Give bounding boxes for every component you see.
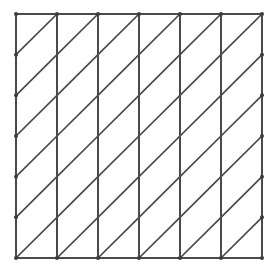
lattice-node-r4-c0 <box>14 175 18 179</box>
lattice-node-r1-c6 <box>260 53 264 57</box>
lattice-node-r0-c0 <box>14 12 18 16</box>
lattice-node-r1-c0 <box>14 53 18 57</box>
lattice-node-r0-c6 <box>260 12 264 16</box>
lattice-node-r6-c4 <box>178 256 182 260</box>
lattice-node-r6-c2 <box>96 256 100 260</box>
lattice-node-r0-c4 <box>178 12 182 16</box>
lattice-node-r3-c6 <box>260 134 264 138</box>
lattice-node-r6-c1 <box>55 256 59 260</box>
lattice-node-r6-c0 <box>14 256 18 260</box>
lattice-node-r2-c0 <box>14 93 18 97</box>
lattice-node-r5-c0 <box>14 215 18 219</box>
lattice-node-r0-c3 <box>137 12 141 16</box>
lattice-node-r0-c5 <box>219 12 223 16</box>
lattice-node-r6-c6 <box>260 256 264 260</box>
lattice-diagram-figure <box>0 0 274 270</box>
figure-background <box>0 0 274 270</box>
lattice-node-r3-c0 <box>14 134 18 138</box>
lattice-node-r0-c1 <box>55 12 59 16</box>
lattice-node-r5-c6 <box>260 215 264 219</box>
lattice-node-r2-c6 <box>260 93 264 97</box>
lattice-node-r6-c5 <box>219 256 223 260</box>
lattice-node-r4-c6 <box>260 175 264 179</box>
lattice-svg-canvas <box>0 0 274 270</box>
lattice-node-r6-c3 <box>137 256 141 260</box>
lattice-node-r0-c2 <box>96 12 100 16</box>
